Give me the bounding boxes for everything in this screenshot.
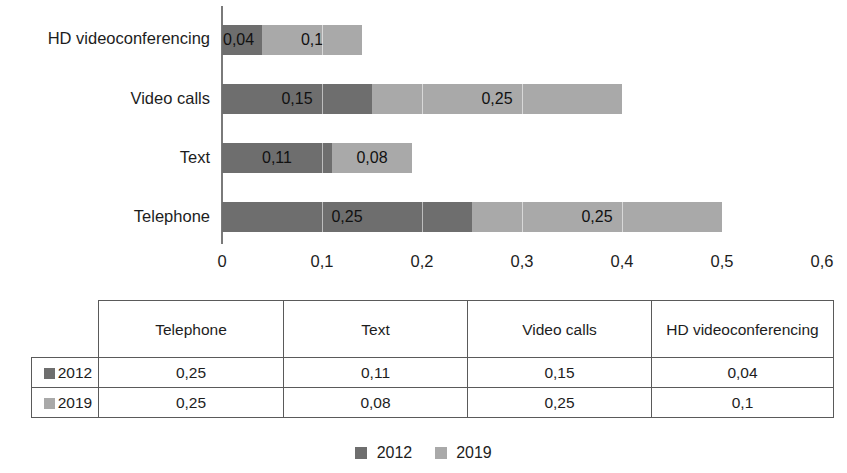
bar-segment-2019: 0,1 bbox=[262, 25, 362, 55]
table-cell: 0,25 bbox=[99, 358, 284, 388]
table-header-telephone: Telephone bbox=[99, 301, 284, 358]
data-table: Telephone Text Video calls HD videoconfe… bbox=[31, 300, 834, 418]
table-corner-cell bbox=[32, 301, 99, 358]
x-tick-0-1: 0,1 bbox=[292, 252, 352, 271]
bar-segment-2012: 0,15 bbox=[222, 84, 372, 114]
bar-value-label: 0,15 bbox=[222, 84, 372, 114]
gridline-tick bbox=[322, 202, 323, 232]
bar-row-text: 0,11 0,08 bbox=[222, 143, 412, 173]
table-cell: 0,1 bbox=[652, 388, 834, 418]
bar-value-label: 0,25 bbox=[372, 84, 622, 114]
table-header-text: Text bbox=[284, 301, 468, 358]
series-color-swatch-icon bbox=[44, 368, 55, 379]
table-cell: 0,15 bbox=[468, 358, 652, 388]
table-row-label: 2012 bbox=[58, 364, 92, 381]
category-label-telephone: Telephone bbox=[0, 207, 210, 225]
gridline-tick bbox=[322, 143, 323, 173]
table-cell: 0,04 bbox=[652, 358, 834, 388]
table-header-video-calls: Video calls bbox=[468, 301, 652, 358]
table-row-label: 2019 bbox=[58, 394, 92, 411]
table-cell: 0,25 bbox=[468, 388, 652, 418]
legend-item-2019: 2019 bbox=[435, 444, 492, 462]
bar-segment-2012: 0,04 bbox=[222, 25, 262, 55]
bar-row-video-calls: 0,15 0,25 bbox=[222, 84, 622, 114]
table-cell: 0,08 bbox=[284, 388, 468, 418]
x-tick-0: 0 bbox=[192, 252, 252, 271]
legend-color-swatch-icon bbox=[435, 447, 447, 459]
x-tick-0-4: 0,4 bbox=[592, 252, 652, 271]
x-axis-tick-labels: 0 0,1 0,2 0,3 0,4 0,5 0,6 bbox=[0, 252, 847, 276]
bar-segment-2012: 0,25 bbox=[222, 202, 472, 232]
gridline-tick bbox=[522, 84, 523, 114]
legend-item-2012: 2012 bbox=[355, 444, 412, 462]
table-header-hd-videoconferencing: HD videoconferencing bbox=[652, 301, 834, 358]
legend-label: 2012 bbox=[377, 444, 413, 462]
bar-value-label: 0,25 bbox=[222, 202, 472, 232]
x-tick-0-6: 0,6 bbox=[792, 252, 847, 271]
gridline-tick bbox=[322, 25, 323, 55]
category-label-video-calls: Video calls bbox=[0, 89, 210, 107]
table-cell: 0,25 bbox=[99, 388, 284, 418]
gridline-tick bbox=[522, 202, 523, 232]
bar-segment-2012: 0,11 bbox=[222, 143, 332, 173]
gridline-tick bbox=[622, 202, 623, 232]
category-label-hd-videoconferencing: HD videoconferencing bbox=[0, 29, 210, 47]
bar-value-label: 0,08 bbox=[332, 143, 412, 173]
gridline-tick bbox=[422, 202, 423, 232]
legend-color-swatch-icon bbox=[355, 447, 367, 459]
table-row-header-2012: 2012 bbox=[32, 358, 99, 388]
legend-label: 2019 bbox=[456, 444, 492, 462]
bar-value-label: 0,25 bbox=[472, 202, 722, 232]
bar-row-hd-videoconferencing: 0,04 0,1 bbox=[222, 25, 362, 55]
table-header-row: Telephone Text Video calls HD videoconfe… bbox=[32, 301, 834, 358]
bar-row-telephone: 0,25 0,25 bbox=[222, 202, 722, 232]
bar-segment-2019: 0,25 bbox=[372, 84, 622, 114]
chart-plot-area: HD videoconferencing Video calls Text Te… bbox=[0, 0, 847, 285]
bar-value-label: 0,1 bbox=[262, 25, 362, 55]
x-tick-0-5: 0,5 bbox=[692, 252, 752, 271]
table-cell: 0,11 bbox=[284, 358, 468, 388]
chart-legend: 2012 2019 bbox=[0, 444, 847, 462]
bar-value-label: 0,11 bbox=[222, 143, 332, 173]
table-row: 2019 0,25 0,08 0,25 0,1 bbox=[32, 388, 834, 418]
gridline-tick bbox=[322, 84, 323, 114]
bar-value-label: 0,04 bbox=[222, 25, 262, 55]
series-color-swatch-icon bbox=[44, 398, 55, 409]
table-row-header-2019: 2019 bbox=[32, 388, 99, 418]
bar-segment-2019: 0,08 bbox=[332, 143, 412, 173]
table-row: 2012 0,25 0,11 0,15 0,04 bbox=[32, 358, 834, 388]
gridline-tick bbox=[422, 84, 423, 114]
x-tick-0-2: 0,2 bbox=[392, 252, 452, 271]
x-tick-0-3: 0,3 bbox=[492, 252, 552, 271]
category-label-text: Text bbox=[0, 148, 210, 166]
bar-segment-2019: 0,25 bbox=[472, 202, 722, 232]
